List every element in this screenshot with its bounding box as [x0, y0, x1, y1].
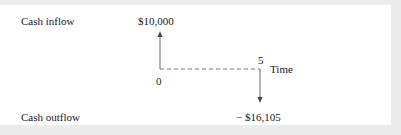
- cash-flow-graphic: [0, 0, 401, 135]
- outflow-arrow-head-icon: [258, 97, 263, 103]
- inflow-arrow-head-icon: [158, 31, 163, 37]
